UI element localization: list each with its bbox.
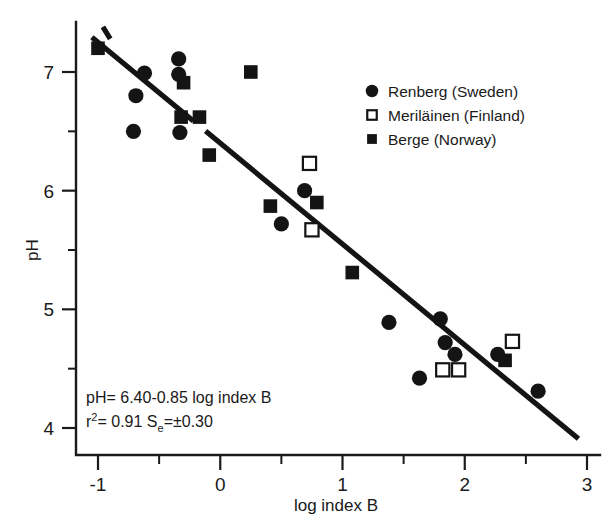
marker-berge: [202, 148, 216, 162]
y-tick-label: 5: [43, 299, 54, 320]
chart-figure: 4567 -10123 pH log index B pH= 6.40-0.85…: [0, 0, 615, 526]
legend-label: Meriläinen (Finland): [388, 107, 525, 124]
marker-renberg: [366, 85, 378, 97]
x-tick-label: -1: [90, 474, 107, 495]
equation-line-1: pH= 6.40-0.85 log index B: [86, 389, 271, 406]
marker-berge: [310, 196, 324, 210]
legend: Renberg (Sweden)Meriläinen (Finland)Berg…: [366, 83, 525, 148]
equation-suffix: =±0.30: [164, 413, 213, 430]
marker-berge: [244, 65, 258, 79]
line-cap-artifact: [103, 27, 110, 39]
x-tick-label: 2: [459, 474, 470, 495]
marker-renberg: [381, 315, 396, 330]
y-axis-title: pH: [23, 239, 42, 261]
marker-renberg: [433, 311, 448, 326]
marker-renberg: [171, 51, 186, 66]
marker-berge: [498, 354, 512, 368]
x-tick-label: 3: [582, 474, 593, 495]
marker-merilainen: [305, 223, 318, 236]
legend-label: Berge (Norway): [388, 131, 497, 148]
x-axis-ticks: [98, 455, 587, 470]
marker-berge: [193, 110, 207, 124]
marker-renberg: [447, 347, 462, 362]
marker-renberg: [137, 66, 152, 81]
marker-berge: [174, 110, 188, 124]
legend-label: Renberg (Sweden): [388, 83, 518, 100]
marker-renberg: [126, 124, 141, 139]
y-tick-label: 7: [43, 62, 54, 83]
marker-berge: [345, 266, 359, 280]
x-tick-labels: -10123: [90, 474, 593, 495]
marker-merilainen: [506, 335, 519, 348]
y-tick-label: 4: [43, 418, 54, 439]
y-axis-ticks: [62, 72, 76, 428]
marker-renberg: [412, 371, 427, 386]
y-tick-label: 6: [43, 181, 54, 202]
scatter-plot-svg: 4567 -10123 pH log index B pH= 6.40-0.85…: [0, 0, 615, 526]
marker-berge: [91, 41, 105, 55]
x-tick-label: 1: [337, 474, 348, 495]
x-tick-label: 0: [215, 474, 226, 495]
marker-merilainen: [452, 363, 465, 376]
marker-merilainen: [303, 157, 316, 170]
marker-renberg: [274, 216, 289, 231]
marker-renberg: [531, 384, 546, 399]
marker-berge: [264, 199, 278, 213]
x-axis-title: log index B: [294, 496, 378, 515]
marker-berge: [177, 76, 191, 90]
equation-mid: = 0.91 S: [97, 413, 157, 430]
equation-line-2: r2= 0.91 Se=±0.30: [86, 411, 213, 434]
marker-renberg: [438, 335, 453, 350]
equation-annotation: pH= 6.40-0.85 log index B r2= 0.91 Se=±0…: [86, 389, 271, 434]
marker-merilainen: [367, 110, 377, 120]
y-tick-labels: 4567: [43, 62, 54, 439]
marker-merilainen: [436, 363, 449, 376]
marker-renberg: [128, 88, 143, 103]
marker-renberg: [172, 125, 187, 140]
marker-renberg: [297, 183, 312, 198]
marker-berge: [367, 134, 377, 144]
